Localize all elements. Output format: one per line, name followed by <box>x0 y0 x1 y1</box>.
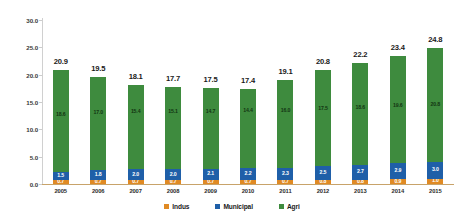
x-axis-tick-label: 2005 <box>45 188 77 194</box>
bar-group[interactable]: 0.72.316.019.12011 <box>277 0 293 218</box>
stacked-bar[interactable]: 0.82.517.5 <box>315 70 331 184</box>
stacked-bar[interactable]: 0.92.919.6 <box>390 56 406 184</box>
bar-segment-agri[interactable]: 18.6 <box>53 70 69 172</box>
bar-group[interactable]: 0.72.015.117.72008 <box>165 0 181 218</box>
bar-segment-label-agri: 14.7 <box>203 109 219 169</box>
bar-segment-agri[interactable]: 14.4 <box>240 89 256 168</box>
x-axis-tick-label: 2007 <box>120 188 152 194</box>
bar-segment-label-municipal: 2.0 <box>128 172 144 177</box>
bar-segment-label-municipal: 1.8 <box>90 173 106 178</box>
y-axis-tick-label: 15.0 <box>26 99 38 106</box>
bar-segment-label-municipal: 2.0 <box>165 172 181 177</box>
bar-segment-agri[interactable]: 15.1 <box>165 87 181 170</box>
x-axis-line <box>42 184 454 185</box>
bar-segment-agri[interactable]: 14.7 <box>203 88 219 168</box>
legend-swatch-icon <box>164 204 169 209</box>
y-axis-tick-labels: 30.025.020.015.010.05.00.0 <box>0 0 38 218</box>
bar-group[interactable]: 0.82.718.622.22013 <box>352 0 368 218</box>
bar-total-label: 18.1 <box>122 72 150 81</box>
stacked-bar[interactable]: 0.72.114.7 <box>203 88 219 184</box>
bar-segment-municipal[interactable]: 2.7 <box>352 165 368 180</box>
x-axis-tick-label: 2013 <box>344 188 376 194</box>
bar-segment-municipal[interactable]: 2.3 <box>277 168 293 181</box>
y-axis-tick-label: 0.0 <box>30 181 38 188</box>
bar-segment-municipal[interactable]: 2.0 <box>165 169 181 180</box>
bar-total-label: 19.1 <box>271 67 299 76</box>
bar-segment-municipal[interactable]: 2.5 <box>315 166 331 180</box>
bar-total-label: 24.8 <box>421 35 449 44</box>
legend-label: Municipal <box>223 203 253 210</box>
bar-segment-agri[interactable]: 16.0 <box>277 80 293 167</box>
bar-segment-label-municipal: 2.3 <box>277 171 293 176</box>
bar-group[interactable]: 0.82.517.520.82012 <box>315 0 331 218</box>
bar-segment-agri[interactable]: 15.4 <box>128 85 144 169</box>
x-axis-tick-label: 2015 <box>419 188 451 194</box>
legend-label: Agri <box>287 203 300 210</box>
bar-segment-label-agri: 15.4 <box>128 109 144 169</box>
y-axis-tick-mark <box>39 102 42 103</box>
x-axis-tick-label: 2009 <box>195 188 227 194</box>
bar-group[interactable]: 0.71.518.620.92005 <box>53 0 69 218</box>
bar-segment-agri[interactable]: 19.6 <box>390 56 406 163</box>
bar-segment-municipal[interactable]: 2.9 <box>390 163 406 179</box>
chart-legend: IndusMunicipalAgri <box>0 203 464 210</box>
bar-segment-label-municipal: 2.7 <box>352 170 368 175</box>
bar-group[interactable]: 1.03.020.824.82015 <box>427 0 443 218</box>
bar-segment-label-municipal: 1.5 <box>53 173 69 178</box>
bar-segment-label-agri: 15.1 <box>165 109 181 169</box>
x-axis-tick-label: 2012 <box>307 188 339 194</box>
stacked-bar[interactable]: 0.71.817.0 <box>90 77 106 184</box>
bar-segment-agri[interactable]: 18.6 <box>352 63 368 165</box>
bar-segment-label-municipal: 2.5 <box>315 170 331 175</box>
bar-segment-agri[interactable]: 17.0 <box>90 77 106 170</box>
bar-total-label: 17.5 <box>197 75 225 84</box>
bar-segment-agri[interactable]: 20.8 <box>427 48 443 162</box>
x-axis-tick-label: 2006 <box>82 188 114 194</box>
bar-segment-agri[interactable]: 17.5 <box>315 70 331 166</box>
y-axis-tick-label: 10.0 <box>26 126 38 133</box>
bar-segment-label-municipal: 3.0 <box>427 168 443 173</box>
legend-item[interactable]: Agri <box>279 203 300 210</box>
x-axis-tick-label: 2010 <box>232 188 264 194</box>
bar-group[interactable]: 0.71.817.019.52006 <box>90 0 106 218</box>
x-axis-tick-label: 2014 <box>382 188 414 194</box>
stacked-bar[interactable]: 0.72.214.4 <box>240 89 256 184</box>
bar-segment-municipal[interactable]: 3.0 <box>427 162 443 178</box>
bar-total-label: 23.4 <box>384 43 412 52</box>
legend-label: Indus <box>172 203 189 210</box>
bar-segment-label-agri: 17.5 <box>315 106 331 166</box>
y-axis-tick-mark <box>39 20 42 21</box>
bar-segment-municipal[interactable]: 2.2 <box>240 168 256 180</box>
stacked-bar[interactable]: 0.72.015.4 <box>128 85 144 184</box>
stacked-bar[interactable]: 0.71.518.6 <box>53 70 69 184</box>
legend-swatch-icon <box>279 204 284 209</box>
bar-segment-label-agri: 19.6 <box>390 103 406 163</box>
bar-segment-label-agri: 14.4 <box>240 108 256 168</box>
stacked-bar[interactable]: 0.72.015.1 <box>165 87 181 184</box>
bar-segment-label-agri: 17.0 <box>90 110 106 170</box>
bar-segment-label-municipal: 2.1 <box>203 172 219 177</box>
bar-segment-municipal[interactable]: 1.8 <box>90 170 106 180</box>
bar-total-label: 20.8 <box>309 57 337 66</box>
x-axis-tick-label: 2011 <box>269 188 301 194</box>
stacked-bar[interactable]: 1.03.020.8 <box>427 48 443 184</box>
bar-group[interactable]: 0.72.214.417.42010 <box>240 0 256 218</box>
bar-total-label: 19.5 <box>84 64 112 73</box>
y-axis-tick-mark <box>39 157 42 158</box>
y-axis-tick-label: 5.0 <box>30 153 38 160</box>
stacked-bar-chart: 30.025.020.015.010.05.00.0 0.71.518.620.… <box>0 0 464 218</box>
bar-total-label: 22.2 <box>346 50 374 59</box>
bar-group[interactable]: 0.72.015.418.12007 <box>128 0 144 218</box>
bar-segment-municipal[interactable]: 2.1 <box>203 169 219 180</box>
bar-group[interactable]: 0.92.919.623.42014 <box>390 0 406 218</box>
bar-segment-municipal[interactable]: 1.5 <box>53 172 69 180</box>
stacked-bar[interactable]: 0.82.718.6 <box>352 63 368 184</box>
y-axis-tick-label: 20.0 <box>26 71 38 78</box>
legend-item[interactable]: Municipal <box>215 203 253 210</box>
bar-segment-municipal[interactable]: 2.0 <box>128 169 144 180</box>
bar-group[interactable]: 0.72.114.717.52009 <box>203 0 219 218</box>
stacked-bar[interactable]: 0.72.316.0 <box>277 80 293 184</box>
y-axis-tick-label: 25.0 <box>26 44 38 51</box>
legend-item[interactable]: Indus <box>164 203 189 210</box>
bar-segment-label-municipal: 2.2 <box>240 172 256 177</box>
